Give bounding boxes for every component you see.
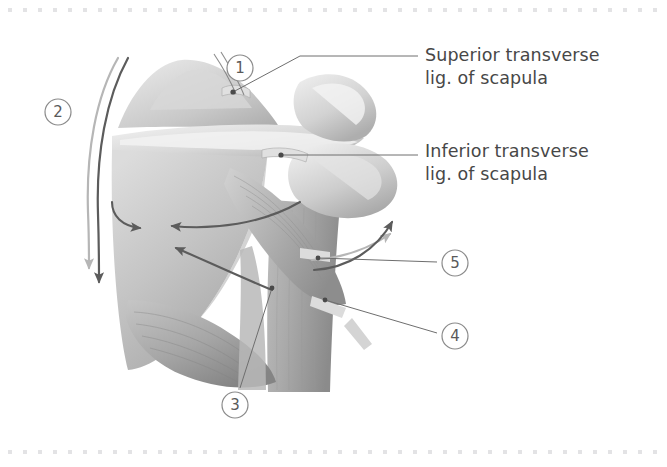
callout-1-label: 1 (235, 59, 245, 77)
dotted-border-top (8, 8, 657, 12)
tendon-slip-side (344, 318, 372, 350)
triceps-strip (238, 246, 266, 390)
leader-dot-5 (316, 256, 321, 261)
label-inferior-transverse-ligament: Inferior transverse lig. of scapula (425, 140, 589, 186)
label-superior-transverse-ligament: Superior transverse lig. of scapula (425, 44, 600, 90)
callout-2[interactable]: 2 (45, 99, 71, 125)
callout-4-label: 4 (450, 327, 460, 345)
callout-5-label: 5 (450, 254, 460, 272)
callout-2-label: 2 (53, 103, 63, 121)
leader-dot-3 (270, 286, 275, 291)
leader-dot-4 (323, 298, 328, 303)
callout-3-label: 3 (230, 396, 240, 414)
leader-dot-inferior (278, 152, 283, 157)
callout-1[interactable]: 1 (227, 55, 253, 81)
figure-page: 1 2 3 4 5 Superior transverse lig. of sc… (0, 0, 667, 467)
callout-4[interactable]: 4 (442, 323, 468, 349)
callout-5[interactable]: 5 (442, 250, 468, 276)
scapula-shoulder-artwork (112, 52, 398, 392)
callout-3[interactable]: 3 (222, 392, 248, 418)
leader-dot-superior (230, 89, 235, 94)
dotted-border-bottom (8, 450, 657, 454)
